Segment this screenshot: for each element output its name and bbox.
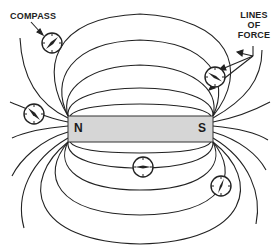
field-line-right-outer-2 — [213, 102, 270, 122]
compass-left — [24, 104, 44, 124]
south-pole-label: S — [198, 121, 206, 135]
compass-top-right — [205, 67, 225, 87]
bar-magnet — [68, 116, 213, 142]
compass-label: COMPASS — [10, 11, 56, 21]
compass-bottom-right — [211, 176, 231, 196]
compass-top-left — [42, 33, 62, 53]
compass-bottom-center — [133, 157, 153, 177]
lines-of-force-line-2: OF — [236, 20, 272, 30]
lines-of-force-line-3: FORCE — [236, 30, 272, 40]
field-line-right-outer-4 — [213, 132, 266, 170]
lines-of-force-label: LINES OF FORCE — [236, 10, 272, 40]
field-line-top-5 — [70, 104, 211, 116]
field-line-right-outer-3 — [213, 126, 268, 140]
lines-of-force-line-1: LINES — [236, 10, 272, 20]
field-line-bottom-5 — [70, 142, 211, 153]
field-line-top-4 — [68, 88, 213, 116]
north-pole-label: N — [74, 121, 83, 135]
compass-pointer-arrow — [31, 22, 43, 35]
field-line-left-outer-3 — [12, 126, 68, 138]
magnetic-field-diagram: N S COMPASS LINES OF FORCE — [0, 0, 280, 250]
